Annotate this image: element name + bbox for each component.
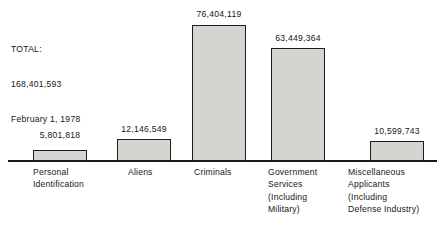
x-axis-category-label: Criminals	[194, 166, 232, 178]
plot-area: 5,801,818 Personal Identification 12,146…	[0, 0, 443, 227]
table-row	[192, 25, 246, 161]
bar-value-label: 12,146,549	[108, 124, 180, 134]
bar-value-label: 10,599,743	[361, 126, 433, 136]
table-row	[117, 139, 171, 161]
bar-value-label: 76,404,119	[183, 9, 255, 19]
x-axis-category-label: Government Services (Including Military)	[268, 166, 317, 216]
x-axis-category-label: Aliens	[128, 166, 153, 178]
x-axis-category-label: Miscellaneous Applicants (Including Defe…	[348, 166, 419, 216]
table-row	[370, 141, 424, 161]
bar-chart: TOTAL: 168,401,593 February 1, 1978 5,80…	[0, 0, 443, 227]
bar-value-label: 5,801,818	[25, 130, 95, 140]
bar-value-label: 63,449,364	[262, 33, 334, 43]
table-row	[33, 150, 87, 161]
x-axis-category-label: Personal Identification	[33, 166, 84, 191]
table-row	[271, 48, 325, 161]
